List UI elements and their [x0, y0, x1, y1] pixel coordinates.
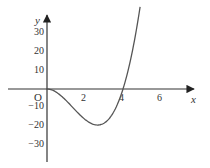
x-tick-6: 6 [157, 92, 162, 103]
y-axis-label: y [34, 14, 40, 26]
x-tick-2: 2 [81, 92, 86, 103]
y-tick-20: 20 [34, 45, 44, 56]
function-curve [47, 7, 140, 125]
y-tick-30: 30 [34, 26, 44, 37]
y-tick-neg10: −10 [28, 100, 44, 111]
y-tick-neg30: −30 [28, 138, 44, 149]
y-tick-neg20: −20 [28, 119, 44, 130]
x-axis-label: x [190, 93, 196, 105]
y-tick-10: 10 [34, 64, 44, 75]
function-graph: x y O 2 4 6 30 20 10 −10 −20 −30 [0, 0, 210, 168]
